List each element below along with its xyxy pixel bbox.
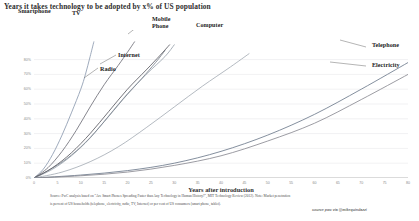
- series-label-radio: Radio: [100, 66, 116, 73]
- x-axis-label: Years after introduction: [34, 186, 408, 193]
- y-tick-label: 80%: [24, 58, 31, 62]
- source-note-line-1: Source: PwC analysis based on "Are Smart…: [50, 194, 290, 198]
- chart-page: Years it takes technology to be adopted …: [0, 0, 419, 221]
- x-tick-label: 20: [126, 181, 130, 185]
- source-note-line-2: is percent of US households (telephone, …: [50, 202, 221, 206]
- series-label-tv: TV: [72, 10, 81, 17]
- x-tick-label: 30: [172, 181, 176, 185]
- series-label-telephone: Telephone: [372, 42, 399, 49]
- series-label-internet: Internet: [118, 52, 140, 59]
- series-label-electricity: Electricity: [372, 62, 400, 69]
- x-tick-label: 80: [406, 181, 410, 185]
- series-label-mobile-phone: MobilePhone: [152, 16, 171, 30]
- x-tick-label: 65: [336, 181, 340, 185]
- x-tick-label: 10: [79, 181, 83, 185]
- y-tick-label: 20%: [24, 146, 31, 150]
- x-tick-label: 0: [33, 181, 35, 185]
- x-tick-label: 5: [56, 181, 58, 185]
- y-tick-label: 60%: [24, 87, 31, 91]
- series-label-smartphone: Smartphone: [18, 8, 51, 15]
- series-label-computer: Computer: [196, 22, 223, 29]
- x-tick-label: 35: [196, 181, 200, 185]
- series-line-tv: [34, 42, 135, 178]
- x-tick-label: 25: [149, 181, 153, 185]
- series-line-radio: [34, 45, 170, 178]
- x-tick-label: 70: [359, 181, 363, 185]
- x-tick-label: 40: [219, 181, 223, 185]
- x-tick-label: 45: [242, 181, 246, 185]
- chart-canvas: [34, 30, 408, 178]
- x-tick-label: 15: [102, 181, 106, 185]
- series-line-smartphone: [34, 42, 94, 178]
- x-tick-label: 75: [383, 181, 387, 185]
- series-line-telephone: [34, 63, 408, 178]
- x-tick-label: 50: [266, 181, 270, 185]
- x-tick-label: 55: [289, 181, 293, 185]
- y-tick-label: 70%: [24, 72, 31, 76]
- x-tick-label: 60: [313, 181, 317, 185]
- credit-attribution: source pwc via @mikequindazzi: [312, 208, 367, 212]
- series-line-electricity: [34, 74, 408, 178]
- y-tick-label: 50%: [24, 102, 31, 106]
- y-tick-label: 40%: [24, 117, 31, 121]
- y-tick-label: 30%: [24, 132, 31, 136]
- y-tick-label: 0%: [26, 176, 31, 180]
- plot-area: 0%10%20%30%40%50%60%70%80% 0510152025303…: [34, 30, 408, 178]
- y-tick-label: 10%: [24, 161, 31, 165]
